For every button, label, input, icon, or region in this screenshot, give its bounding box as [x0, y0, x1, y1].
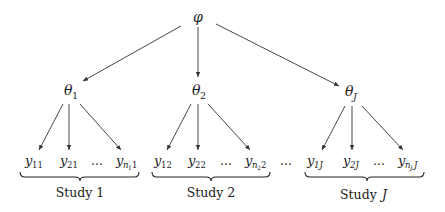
svg-text:2: 2 — [261, 160, 266, 170]
svg-text:1J: 1J — [314, 160, 323, 170]
obs-ellipsis: … — [91, 154, 103, 168]
param-node-thetaJ: θ J — [345, 83, 358, 102]
svg-text:Study: Study — [340, 187, 381, 202]
obs-ellipsis: … — [373, 154, 385, 168]
obs-y21: y 21 — [59, 153, 78, 170]
hierarchical-model-diagram: φ θ 1 θ 2 θ J y 11 y 21 … y n 1 1 y — [0, 0, 445, 212]
obs-y11: y 11 — [24, 153, 43, 170]
obs-ynJJ: y n J J — [397, 153, 418, 172]
edge-thetaJ-ynJJ — [362, 106, 403, 150]
svg-text:1: 1 — [72, 90, 78, 101]
group-label-study-J: Study J — [340, 187, 388, 202]
group-label-study-1: Study 1 — [56, 185, 105, 200]
edge-theta1-y11 — [39, 104, 63, 150]
svg-text:22: 22 — [195, 160, 206, 170]
svg-text:1: 1 — [132, 160, 137, 170]
underbrace-study-1 — [20, 172, 139, 181]
param-node-theta1: θ 1 — [64, 82, 78, 101]
edge-theta1-yn11 — [80, 104, 121, 150]
svg-text:J: J — [412, 160, 418, 170]
obs-yn11: y n 1 1 — [115, 153, 137, 171]
param-node-theta2: θ 2 — [192, 82, 206, 101]
svg-text:21: 21 — [67, 160, 78, 170]
underbrace-study-J — [305, 172, 424, 181]
obs-y1J: y 1J — [306, 153, 323, 170]
edge-theta2-yn22 — [208, 104, 250, 150]
between-groups-ellipsis: … — [280, 154, 292, 168]
svg-text:2: 2 — [200, 90, 206, 101]
edge-phi-thetaJ — [216, 24, 339, 86]
obs-y22: y 22 — [187, 153, 206, 170]
svg-text:2J: 2J — [349, 160, 359, 170]
obs-y12: y 12 — [153, 153, 172, 170]
underbrace-study-2 — [152, 172, 270, 181]
svg-text:J: J — [351, 91, 358, 102]
edge-theta2-y12 — [167, 104, 191, 150]
obs-ellipsis: … — [220, 154, 232, 168]
svg-text:11: 11 — [32, 160, 43, 170]
obs-yn22: y n 2 2 — [244, 153, 266, 171]
svg-text:12: 12 — [161, 160, 172, 170]
edge-thetaJ-y1J — [322, 106, 345, 150]
group-label-study-2: Study 2 — [187, 185, 236, 200]
edge-phi-theta1 — [83, 26, 181, 81]
obs-y2J: y 2J — [342, 153, 359, 170]
root-node-phi: φ — [193, 9, 203, 25]
